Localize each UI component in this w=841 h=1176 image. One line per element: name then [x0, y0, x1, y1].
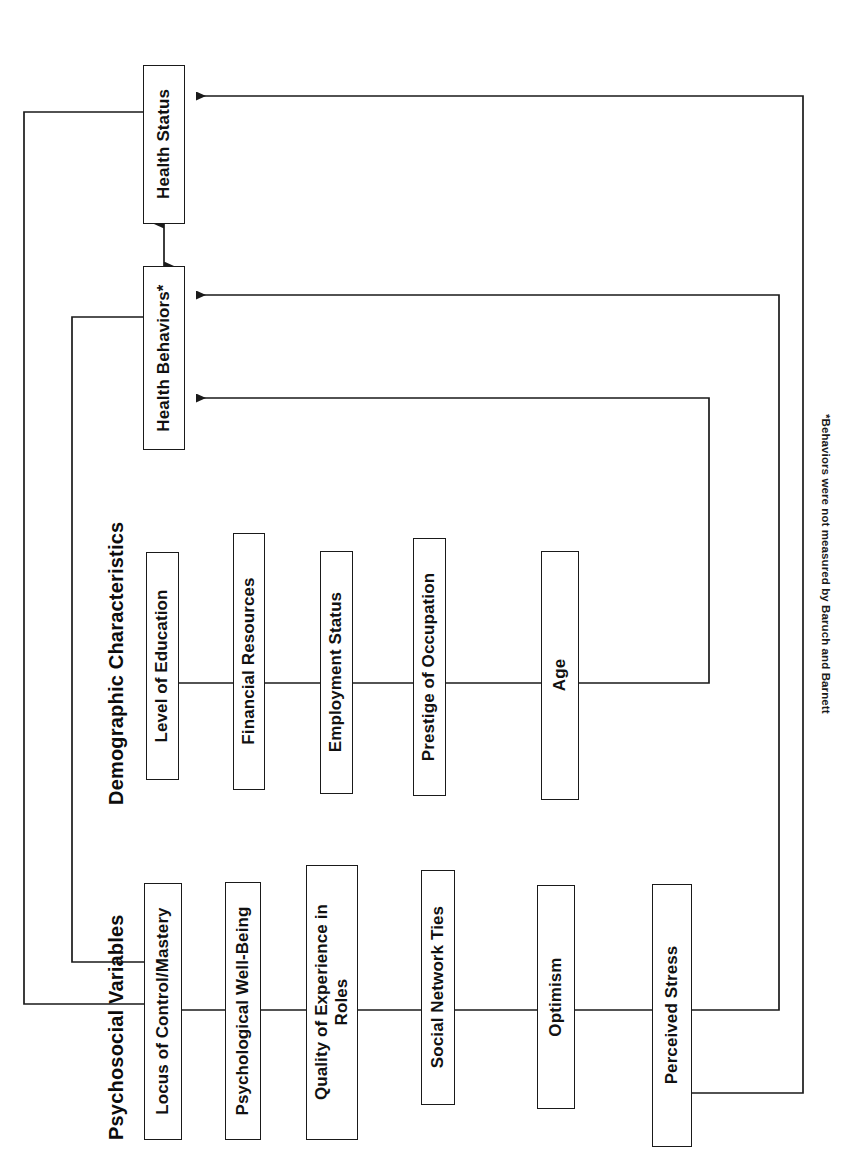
node-prestige-of-occupation-label: Prestige of Occupation	[419, 573, 439, 761]
node-health-behaviors[interactable]: Health Behaviors*	[143, 266, 185, 450]
node-locus-of-control-mastery-label: Locus of Control/Mastery	[153, 908, 173, 1115]
node-quality-of-experience-in-roles[interactable]: Quality of Experience in Roles	[306, 865, 358, 1140]
node-level-of-education[interactable]: Level of Education	[146, 552, 179, 780]
diagram-canvas: Psychosocial Variables Demographic Chara…	[0, 0, 841, 1176]
group-heading-psychosocial: Psychosocial Variables	[105, 914, 128, 1140]
footnote-text: *Behaviors were not measured by Baruch a…	[820, 414, 832, 714]
node-optimism-label: Optimism	[546, 957, 566, 1036]
node-optimism[interactable]: Optimism	[537, 885, 575, 1109]
node-psychological-well-being-label: Psychological Well-Being	[233, 907, 253, 1116]
node-health-status-label: Health Status	[154, 90, 174, 200]
node-psychological-well-being[interactable]: Psychological Well-Being	[225, 882, 261, 1140]
node-quality-of-experience-in-roles-label: Quality of Experience in Roles	[312, 904, 352, 1100]
connector-demographic-to-behaviors	[196, 398, 709, 683]
node-level-of-education-label: Level of Education	[152, 590, 172, 743]
node-age[interactable]: Age	[541, 551, 579, 800]
node-prestige-of-occupation[interactable]: Prestige of Occupation	[413, 538, 446, 796]
group-heading-demographic: Demographic Characteristics	[105, 522, 128, 805]
node-financial-resources-label: Financial Resources	[239, 578, 259, 745]
node-employment-status-label: Employment Status	[326, 592, 346, 752]
node-perceived-stress-label: Perceived Stress	[662, 946, 682, 1085]
node-employment-status[interactable]: Employment Status	[320, 551, 353, 794]
node-locus-of-control-mastery[interactable]: Locus of Control/Mastery	[144, 883, 182, 1140]
node-age-label: Age	[550, 659, 570, 691]
node-financial-resources[interactable]: Financial Resources	[233, 533, 265, 790]
connector-psychosocial-to-status	[196, 96, 803, 1093]
node-social-network-ties[interactable]: Social Network Ties	[421, 870, 455, 1105]
node-health-status[interactable]: Health Status	[143, 65, 185, 224]
node-social-network-ties-label: Social Network Ties	[428, 906, 448, 1068]
node-perceived-stress[interactable]: Perceived Stress	[652, 884, 692, 1147]
node-health-behaviors-label: Health Behaviors*	[154, 284, 174, 431]
